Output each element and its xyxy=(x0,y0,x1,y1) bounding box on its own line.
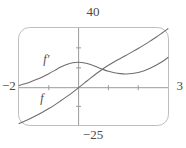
graph-figure: 40 −25 −2 3 f′ f xyxy=(0,0,186,148)
y-min-label: −25 xyxy=(0,128,186,141)
x-min-label: −2 xyxy=(2,79,16,92)
y-max-label: 40 xyxy=(0,5,186,18)
curve-label-f-prime: f′ xyxy=(43,53,49,65)
x-max-label: 3 xyxy=(177,79,184,92)
curve-label-f: f xyxy=(40,92,43,104)
plot-canvas xyxy=(0,0,186,148)
